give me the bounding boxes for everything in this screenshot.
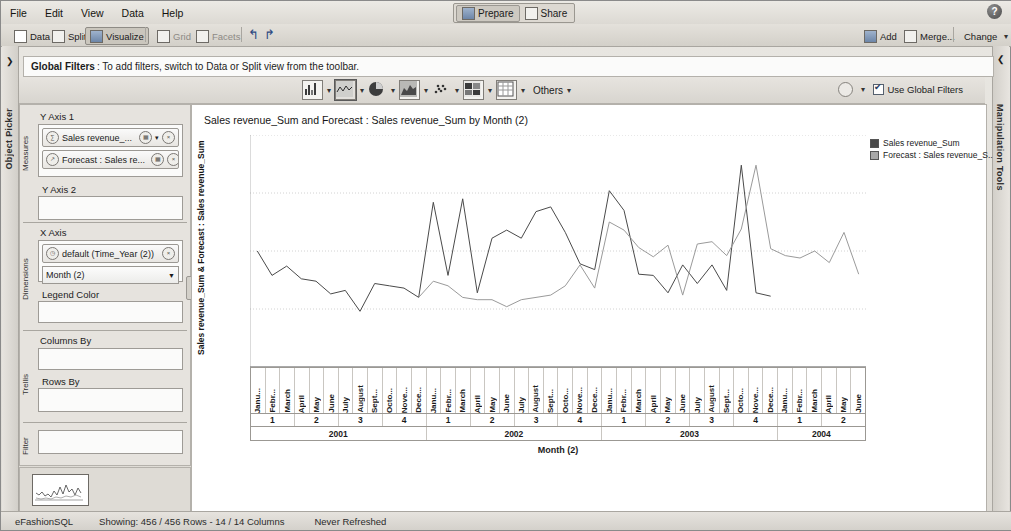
x-axis-level-select[interactable]: Month (2) ▼ bbox=[42, 266, 179, 284]
legend-label-forecast: Forecast : Sales revenue_S.. bbox=[883, 149, 993, 161]
panel-divider-1 bbox=[23, 222, 187, 223]
manipulation-tools-panel-tab[interactable]: ❮ Manipulation Tools bbox=[992, 46, 1009, 512]
columns-by-dropzone[interactable] bbox=[38, 348, 183, 370]
chevron-down-icon: ▼ bbox=[168, 272, 175, 279]
x-axis-quarter-cell: 2 bbox=[822, 414, 865, 426]
menu-item-view[interactable]: View bbox=[72, 5, 113, 21]
share-button[interactable]: Share bbox=[520, 6, 573, 21]
global-filters-text: : To add filters, switch to Data or Spli… bbox=[97, 61, 359, 72]
share-label: Share bbox=[541, 8, 568, 19]
prepare-button[interactable]: Prepare bbox=[456, 5, 520, 22]
menu-item-edit[interactable]: Edit bbox=[36, 5, 72, 21]
line-chart-icon[interactable] bbox=[335, 80, 356, 100]
legend-swatch-forecast bbox=[870, 151, 879, 160]
globe-icon[interactable] bbox=[838, 82, 853, 97]
add-label: Add bbox=[880, 31, 897, 42]
bar-chart-icon[interactable] bbox=[302, 80, 323, 100]
x-axis-item[interactable]: ◷ default (Time_Year (2)) × bbox=[42, 244, 179, 263]
change-label: Change bbox=[964, 31, 997, 42]
area-chart-dropdown[interactable]: ▾ bbox=[420, 86, 432, 95]
y-axis-2-dropzone[interactable] bbox=[38, 196, 183, 220]
share-icon bbox=[525, 7, 538, 20]
x-axis-month-cell: Febr... bbox=[793, 368, 808, 413]
x-axis-month-cell: May bbox=[485, 368, 500, 413]
menu-item-data[interactable]: Data bbox=[113, 5, 153, 21]
change-button[interactable]: Change ▾ bbox=[959, 27, 1011, 45]
others-dropdown[interactable]: ▾ bbox=[563, 86, 575, 95]
line-chart-dropdown[interactable]: ▾ bbox=[356, 86, 368, 95]
rows-by-label: Rows By bbox=[42, 376, 79, 387]
y-axis-1-item-1-remove-icon[interactable]: × bbox=[167, 153, 179, 166]
measure-icon: ∑ bbox=[46, 131, 59, 144]
y-axis-1-item-0[interactable]: ∑ Sales revenue_... ▦ ▾ × bbox=[42, 128, 179, 147]
x-axis-item-remove-icon[interactable]: × bbox=[162, 247, 175, 260]
legend-color-dropzone[interactable] bbox=[38, 301, 183, 323]
toolbar-split-label: Split bbox=[68, 31, 86, 42]
add-button[interactable]: Add bbox=[859, 27, 902, 45]
y-axis-1-item-0-options-icon[interactable]: ▦ bbox=[139, 131, 152, 144]
x-axis-month-cell: May bbox=[661, 368, 676, 413]
x-axis-month-cell: March bbox=[456, 368, 471, 413]
menu-item-file[interactable]: File bbox=[1, 5, 36, 21]
object-picker-panel-tab[interactable]: ❯ Object Picker bbox=[2, 46, 19, 512]
pie-chart-dropdown[interactable]: ▾ bbox=[387, 86, 399, 95]
legend-label-sales: Sales revenue_Sum bbox=[883, 137, 960, 149]
y-axis-1-item-1[interactable]: ↗ Forecast : Sales re... ▦ × bbox=[42, 150, 179, 169]
chevron-left-icon: ❮ bbox=[997, 54, 1005, 64]
x-axis-year-cell: 2002 bbox=[427, 427, 603, 440]
x-axis-month-cell: March bbox=[632, 368, 647, 413]
others-label[interactable]: Others bbox=[529, 85, 563, 96]
data-icon bbox=[14, 30, 27, 43]
legend-item-1[interactable]: Forecast : Sales revenue_S.. bbox=[870, 149, 982, 161]
table-chart-icon[interactable] bbox=[496, 80, 517, 100]
x-axis-month-cell: June bbox=[851, 368, 865, 413]
stacked-chart-icon[interactable] bbox=[463, 80, 484, 100]
x-axis-quarter-cell: 1 bbox=[251, 414, 295, 426]
pie-chart-icon[interactable] bbox=[368, 81, 387, 99]
undo-icon[interactable]: ↰ bbox=[248, 27, 259, 42]
bar-chart-dropdown[interactable]: ▾ bbox=[323, 86, 335, 95]
y-axis-1-label: Y Axis 1 bbox=[40, 111, 190, 122]
table-chart-dropdown[interactable]: ▾ bbox=[517, 86, 529, 95]
toolbar-visualize-button[interactable]: Visualize bbox=[85, 27, 149, 45]
x-axis-month-cell: August bbox=[529, 368, 544, 413]
application-window: File Edit View Data Help Prepare Share ?… bbox=[0, 0, 1011, 531]
stacked-chart-dropdown[interactable]: ▾ bbox=[484, 86, 496, 95]
facets-icon bbox=[196, 30, 209, 43]
globe-dropdown[interactable]: ▾ bbox=[857, 85, 869, 94]
object-picker-label: Object Picker bbox=[4, 108, 14, 169]
x-axis-month-cell: Janu... bbox=[778, 368, 793, 413]
x-axis-month-cell: Febr... bbox=[441, 368, 456, 413]
rows-by-dropzone[interactable] bbox=[38, 388, 183, 412]
x-axis-dropzone[interactable]: ◷ default (Time_Year (2)) × Month (2) ▼ bbox=[38, 240, 183, 282]
chart-thumbnail-panel[interactable] bbox=[19, 467, 191, 513]
prepare-icon bbox=[462, 7, 475, 20]
legend-swatch-sales bbox=[870, 139, 879, 148]
x-axis-quarter-cell: 4 bbox=[558, 414, 602, 426]
help-question-icon[interactable]: ? bbox=[987, 4, 1002, 19]
legend-item-0[interactable]: Sales revenue_Sum bbox=[870, 137, 982, 149]
use-global-filters-group: ▾ Use Global Filters bbox=[838, 82, 964, 97]
y-axis-1-item-0-chevron-icon[interactable]: ▾ bbox=[155, 134, 159, 142]
x-axis-month-cell: April bbox=[646, 368, 661, 413]
menu-item-help[interactable]: Help bbox=[153, 5, 193, 21]
scatter-chart-dropdown[interactable]: ▾ bbox=[451, 86, 463, 95]
area-chart-icon[interactable] bbox=[399, 80, 420, 100]
x-axis-month-cell: July bbox=[339, 368, 354, 413]
redo-icon[interactable]: ↱ bbox=[264, 27, 275, 42]
use-global-filters-checkbox[interactable] bbox=[873, 84, 884, 95]
y-axis-1-dropzone[interactable]: ∑ Sales revenue_... ▦ ▾ × ↗ Forecast : S… bbox=[38, 124, 183, 177]
scatter-chart-icon[interactable] bbox=[432, 81, 451, 99]
x-axis-month-cell: Janu... bbox=[427, 368, 442, 413]
chart-legend: Sales revenue_Sum Forecast : Sales reven… bbox=[870, 137, 982, 161]
toolbar-facets-button[interactable]: Facets bbox=[191, 27, 246, 45]
x-axis-quarter-cell: 2 bbox=[646, 414, 690, 426]
x-axis-month-cell: March bbox=[807, 368, 822, 413]
chart-plot-area[interactable]: 0500000100000015000002000000 bbox=[250, 135, 866, 367]
merge-button[interactable]: Merge... bbox=[899, 27, 960, 45]
y-axis-1-item-1-options-icon[interactable]: ▦ bbox=[151, 153, 164, 166]
y-axis-1-item-0-remove-icon[interactable]: × bbox=[162, 131, 175, 144]
filter-dropzone[interactable] bbox=[38, 430, 183, 454]
dimensions-group-label: Dimensions bbox=[21, 233, 34, 325]
toolbar-grid-button[interactable]: Grid bbox=[152, 27, 196, 45]
